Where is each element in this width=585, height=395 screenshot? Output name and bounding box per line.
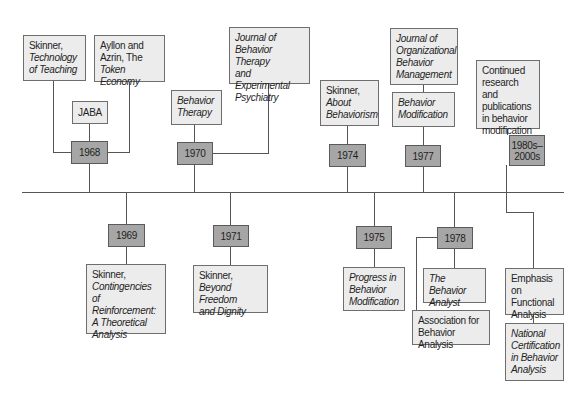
connector bbox=[506, 212, 534, 213]
year-1970: 1970 bbox=[177, 142, 213, 165]
connector bbox=[107, 152, 129, 153]
event-text-line: Therapy bbox=[177, 107, 216, 119]
connector bbox=[533, 212, 534, 268]
event-text-line: Progress in bbox=[349, 272, 399, 284]
connector bbox=[194, 125, 195, 142]
event-box-behavior-therapy: BehaviorTherapy bbox=[171, 90, 222, 125]
event-text-line: research and bbox=[482, 77, 534, 101]
connector bbox=[506, 165, 507, 213]
connector bbox=[212, 153, 268, 154]
event-box-beyond-freedom: Skinner,Beyond Freedomand Dignity bbox=[193, 265, 268, 313]
event-text-line: Skinner, bbox=[199, 270, 262, 282]
connector bbox=[416, 237, 417, 310]
year-1977: 1977 bbox=[405, 145, 441, 167]
event-box-skinner-tech: Skinner,Technologyof Teaching bbox=[23, 35, 86, 81]
event-text-line: Token Economy bbox=[100, 64, 159, 88]
event-box-about-behaviorism: Skinner,AboutBehaviorism bbox=[320, 80, 379, 126]
connector bbox=[194, 164, 195, 192]
event-text-line: Organizational bbox=[396, 45, 452, 57]
connector bbox=[454, 192, 455, 227]
year-1969: 1969 bbox=[108, 224, 145, 247]
event-box-national-cert: NationalCertificationin BehaviorAnalysis bbox=[505, 323, 564, 381]
event-text-line: Certification bbox=[511, 340, 558, 352]
event-box-behavior-analyst: The BehaviorAnalyst bbox=[423, 268, 486, 303]
connector bbox=[53, 152, 71, 153]
event-text-line: Behavior bbox=[396, 57, 452, 69]
event-text-line: and Experimental bbox=[235, 68, 304, 92]
event-text-line: Analysis bbox=[92, 329, 160, 341]
event-text-line: Analysis bbox=[511, 364, 558, 376]
event-text-line: Analyst bbox=[429, 297, 480, 309]
event-text-line: Technology bbox=[29, 52, 80, 64]
event-text-line: National bbox=[511, 328, 558, 340]
year-1968: 1968 bbox=[71, 141, 108, 164]
timeline-axis bbox=[22, 192, 564, 193]
connector bbox=[416, 237, 437, 238]
event-text-line: of Teaching bbox=[29, 64, 80, 76]
event-text-line: The Behavior bbox=[429, 273, 480, 297]
event-text-line: About bbox=[326, 97, 373, 109]
event-text-line: A Theoretical bbox=[92, 317, 160, 329]
connector bbox=[89, 124, 90, 141]
event-text-line: Journal of bbox=[235, 32, 304, 44]
event-text-line: in behavior bbox=[482, 113, 534, 125]
event-box-jbtep: Journal ofBehavior Therapyand Experiment… bbox=[229, 27, 310, 84]
event-text-line: and Dignity bbox=[199, 306, 262, 318]
event-text-line: Behavior bbox=[398, 97, 449, 109]
event-text-line: modification bbox=[482, 125, 534, 137]
year-1974: 1974 bbox=[329, 144, 366, 167]
event-text-line: Skinner, bbox=[92, 269, 160, 281]
event-text-line: Emphasis on bbox=[511, 273, 558, 297]
event-text-line: Beyond Freedom bbox=[199, 282, 262, 306]
connector bbox=[230, 192, 231, 225]
event-text-line: Azrin, The bbox=[100, 52, 159, 64]
year-1980s-2000s: 1980s– 2000s bbox=[509, 135, 545, 166]
event-text-line: Functional bbox=[511, 297, 558, 309]
event-text-line: Analysis bbox=[511, 309, 558, 321]
year-1975: 1975 bbox=[356, 226, 392, 249]
event-text-line: in Behavior bbox=[511, 352, 558, 364]
year-label-line: 1980s– bbox=[511, 140, 542, 151]
connector bbox=[454, 248, 455, 268]
event-text-line: Journal of bbox=[396, 33, 452, 45]
connector bbox=[423, 85, 424, 92]
event-box-aba: Association forBehavior Analysis bbox=[412, 310, 490, 345]
event-box-behavior-modification: BehaviorModification bbox=[392, 92, 455, 127]
event-text-line: Behavior bbox=[177, 95, 216, 107]
event-text-line: Behavior Analysis bbox=[418, 327, 484, 351]
event-text-line: Behaviorism bbox=[326, 109, 373, 121]
event-text-line: Continued bbox=[482, 65, 534, 77]
connector bbox=[126, 192, 127, 224]
event-box-ayllon: Ayllon andAzrin, TheToken Economy bbox=[94, 35, 165, 82]
connector bbox=[89, 163, 90, 192]
connector bbox=[230, 246, 231, 265]
connector bbox=[374, 192, 375, 226]
event-text-line: Management bbox=[396, 69, 452, 81]
connector bbox=[129, 82, 130, 153]
event-text-line: Skinner, bbox=[29, 40, 80, 52]
event-text-line: Skinner, bbox=[326, 85, 373, 97]
event-text-line: Modification bbox=[398, 109, 449, 121]
year-label-line: 2000s bbox=[514, 151, 540, 162]
event-text-line: Behavior Therapy bbox=[235, 44, 304, 68]
event-text-line: of Reinforcement: bbox=[92, 293, 160, 317]
event-box-continued: Continuedresearch andpublicationsin beha… bbox=[476, 60, 540, 129]
event-text-line: Ayllon and bbox=[100, 40, 159, 52]
event-box-contingencies: Skinner,Contingenciesof Reinforcement:A … bbox=[86, 264, 166, 334]
event-text-line: Behavior bbox=[349, 284, 399, 296]
year-1978: 1978 bbox=[437, 227, 473, 249]
event-text-line: Contingencies bbox=[92, 281, 160, 293]
event-box-functional: Emphasis onFunctionalAnalysis bbox=[505, 268, 564, 315]
year-1971: 1971 bbox=[213, 225, 249, 247]
event-text-line: publications bbox=[482, 101, 534, 113]
event-box-jaba: JABA bbox=[72, 101, 108, 124]
event-text-line: Psychiatry bbox=[235, 92, 304, 104]
event-box-jobm: Journal ofOrganizationalBehaviorManageme… bbox=[390, 28, 458, 85]
event-text-line: Association for bbox=[418, 315, 484, 327]
connector bbox=[126, 246, 127, 264]
event-text-line: JABA bbox=[78, 107, 102, 119]
event-box-progress: Progress inBehaviorModification bbox=[343, 267, 405, 311]
event-text-line: Modification bbox=[349, 296, 399, 308]
connector bbox=[374, 248, 375, 267]
connector bbox=[53, 81, 54, 153]
